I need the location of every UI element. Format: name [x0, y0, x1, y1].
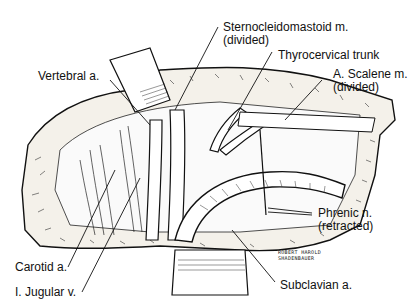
artist-signature: ROBERT HAROLD SHADENBAUER	[278, 249, 321, 261]
label-vertebral: Vertebral a.	[38, 70, 99, 83]
label-carotid: Carotid a.	[15, 261, 67, 274]
label-text: (divided)	[333, 81, 408, 94]
label-text: (retracted)	[318, 220, 373, 233]
label-scalene: A. Scalene m. (divided)	[333, 68, 408, 94]
label-phrenic: Phrenic n. (retracted)	[318, 207, 373, 233]
signature-line: SHADENBAUER	[278, 255, 321, 261]
label-thyrocervical-trunk: Thyrocervical trunk	[278, 49, 379, 62]
label-text: (divided)	[223, 34, 348, 47]
label-jugular: I. Jugular v.	[15, 286, 76, 299]
label-sternocleidomastoid: Sternocleidomastoid m. (divided)	[223, 21, 348, 47]
label-subclavian: Subclavian a.	[280, 279, 352, 292]
